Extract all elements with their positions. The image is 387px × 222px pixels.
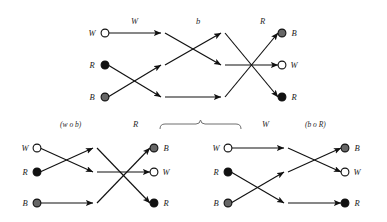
bl-right-node-w [150,168,158,176]
composition-brace [160,120,241,129]
bl-right-node-b [150,144,158,152]
top-right-label-w: W [290,60,298,70]
top-right-node-r [278,93,286,101]
br-right-label-r: R [353,198,360,208]
top-right-label-b: B [291,28,296,38]
bl-stage-label-1: (w o b) [60,120,82,129]
top-right-node-w [278,61,286,69]
bl-right-label-b: B [163,143,168,153]
top-stage-label-2: b [196,16,200,26]
top-left-label-r: R [88,60,95,70]
bl-left-label-r: R [21,167,28,177]
top-left-node-b [101,93,109,101]
bl-left-node-w [33,144,41,152]
br-right-node-w [341,168,349,176]
br-stage-label-2: (b o R) [305,120,326,129]
bl-stage-label-2: R [132,119,139,129]
top-left-node-r [101,61,109,69]
top-left-label-w: W [88,28,96,38]
bottom-right-diagram: W (b o R) W R B B W [212,119,361,208]
top-right-node-b [278,29,286,37]
br-right-node-r [341,199,349,207]
bl-right-label-w: W [162,167,170,177]
braid-diagram-svg: W b R W [0,0,387,222]
bl-right-node-r [150,199,158,207]
bl-left-label-w: W [21,143,29,153]
figure-canvas: W b R W [0,0,387,222]
br-left-label-r: R [212,167,219,177]
bottom-left-diagram: (w o b) R W R B B [21,119,170,208]
bl-right-label-r: R [162,198,169,208]
br-left-label-b: B [213,198,218,208]
br-left-node-w [224,144,232,152]
br-left-node-b [224,199,232,207]
bl-left-node-r [33,168,41,176]
top-right-label-r: R [290,92,297,102]
bl-left-label-b: B [22,198,27,208]
br-stage-label-1: W [262,119,270,129]
top-left-node-w [101,29,109,37]
top-left-label-b: B [89,92,94,102]
top-stage-label-1: W [131,16,139,26]
br-right-label-b: B [354,143,359,153]
br-left-node-r [224,168,232,176]
br-right-node-b [341,144,349,152]
top-diagram: W b R W [88,16,298,102]
bl-left-node-b [33,199,41,207]
br-right-label-w: W [353,167,361,177]
br-left-label-w: W [212,143,220,153]
top-stage-label-3: R [259,16,266,26]
